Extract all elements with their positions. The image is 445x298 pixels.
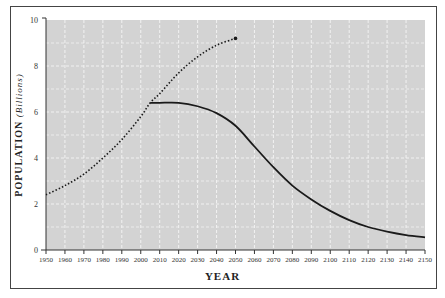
x-tick-label: 1990 (115, 256, 130, 264)
x-tick-label: 2010 (153, 256, 168, 264)
y-tick-label: 2 (34, 200, 38, 209)
x-tick-label: 2050 (229, 256, 244, 264)
x-tick-label: 2150 (418, 256, 433, 264)
x-tick-label: 2030 (191, 256, 206, 264)
x-tick-label: 2040 (210, 256, 225, 264)
series-end-marker (234, 37, 238, 41)
y-axis-label: POPULATION (Billions) (13, 73, 24, 196)
x-tick-label: 2060 (247, 256, 262, 264)
x-axis-label: YEAR (0, 270, 445, 282)
x-tick-label: 1960 (58, 256, 73, 264)
x-tick-label: 1950 (39, 256, 54, 264)
x-tick-label: 2000 (134, 256, 149, 264)
y-tick-label: 4 (34, 154, 38, 163)
x-tick-label: 2130 (380, 256, 395, 264)
population-chart: 1950196019701980199020002010202020302040… (0, 0, 445, 298)
x-tick-label: 2120 (361, 256, 376, 264)
x-tick-label: 1970 (77, 256, 92, 264)
y-tick-label: 10 (30, 16, 38, 25)
y-tick-label: 8 (34, 62, 38, 71)
y-tick-label: 6 (34, 108, 38, 117)
x-tick-label: 2100 (323, 256, 338, 264)
x-tick-label: 2020 (172, 256, 187, 264)
x-tick-label: 2070 (266, 256, 281, 264)
y-tick-label: 0 (34, 246, 38, 255)
x-tick-label: 2080 (285, 256, 300, 264)
x-tick-label: 2140 (399, 256, 414, 264)
x-tick-label: 2110 (342, 256, 356, 264)
x-tick-label: 2090 (304, 256, 319, 264)
x-tick-label: 1980 (96, 256, 111, 264)
